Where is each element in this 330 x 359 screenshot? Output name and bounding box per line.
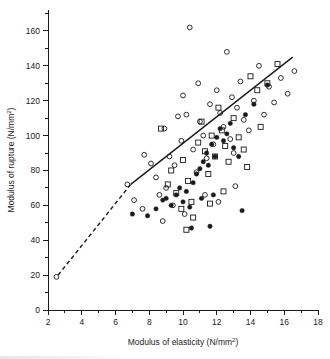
data-point-open-circle [224,49,229,54]
data-point-open-circle [292,69,297,74]
data-point-filled-circle [174,193,178,197]
y-tick-label: 140 [26,61,40,71]
y-tick-label: 160 [26,26,40,36]
data-point-open-square [191,215,196,220]
data-point-open-circle [140,206,145,211]
data-point-open-square [196,140,201,145]
data-point-open-circle [238,79,243,84]
data-point-open-square [245,164,250,169]
data-point-open-square [236,135,241,140]
data-point-filled-circle [265,83,269,87]
data-point-open-square [179,206,184,211]
data-point-open-circle [272,100,277,105]
x-axis-title: Modulus of elasticity (N/mm2) [128,337,239,347]
data-point-filled-circle [188,205,192,209]
data-point-open-circle [162,126,167,131]
y-tick-label: 120 [26,96,40,106]
data-point-open-circle [246,128,251,133]
data-point-open-circle [164,186,169,191]
data-point-filled-circle [194,172,198,176]
data-point-open-circle [184,112,189,117]
y-tick-label: 80 [31,165,41,175]
y-axis-title: Modulus of rupture (N/mm2) [6,107,16,212]
data-point-open-circle [179,138,184,143]
data-point-filled-circle [181,200,185,204]
data-point-open-circle [182,212,187,217]
data-point-filled-circle [211,193,215,197]
data-point-filled-circle [252,102,256,106]
data-point-filled-circle [204,151,208,155]
x-tick-label: 12 [212,317,222,327]
data-point-open-circle [187,25,192,30]
data-point-open-square [216,105,221,110]
data-point-filled-circle [184,189,188,193]
data-point-open-circle [172,163,177,168]
x-tick-label: 8 [147,317,152,327]
data-point-open-square [223,144,228,149]
data-point-open-square [209,133,214,138]
data-point-filled-circle [231,146,235,150]
data-point-filled-circle [199,196,203,200]
data-point-open-circle [231,151,236,156]
data-point-open-circle [132,198,137,203]
data-point-filled-circle [228,121,232,125]
data-point-filled-circle [240,208,244,212]
data-point-filled-circle [206,163,210,167]
data-point-open-square [255,88,260,93]
data-point-filled-circle [215,135,219,139]
x-tick-label: 2 [46,317,51,327]
data-point-open-square [181,158,186,163]
data-point-filled-circle [198,167,202,171]
y-tick-label: 20 [31,270,41,280]
data-point-open-circle [257,63,262,68]
data-point-open-circle [191,147,196,152]
data-point-open-circle [230,95,235,100]
x-tick-label: 10 [178,317,188,327]
data-point-open-square [221,189,226,194]
data-point-open-circle [176,114,181,119]
data-point-open-circle [208,102,213,107]
data-point-filled-circle [213,154,217,158]
data-point-open-square [248,74,253,79]
y-tick-label: 60 [31,200,41,210]
data-point-filled-circle [130,212,134,216]
x-tick-label: 18 [313,317,323,327]
data-point-filled-circle [191,180,195,184]
data-point-open-square [206,171,211,176]
y-tick-label: 40 [31,235,41,245]
data-point-open-square [186,178,191,183]
data-point-open-circle [216,199,221,204]
data-point-open-circle [204,156,209,161]
data-point-open-circle [196,81,201,86]
data-point-filled-circle [243,112,247,116]
data-point-open-circle [54,274,59,279]
data-point-filled-circle [164,196,168,200]
data-point-filled-circle [218,126,222,130]
data-point-filled-circle [169,203,173,207]
data-point-open-circle [203,192,208,197]
data-point-open-circle [181,93,186,98]
data-point-filled-circle [208,224,212,228]
scatter-plot-figure: 02040608010012014016024681012141618Modul… [0,0,330,359]
data-point-open-square [208,201,213,206]
x-tick-label: 4 [79,317,84,327]
data-point-filled-circle [201,160,205,164]
data-point-open-circle [125,182,130,187]
data-point-open-circle [149,161,154,166]
data-point-filled-circle [209,142,213,146]
data-point-filled-circle [189,226,193,230]
data-point-open-square [184,227,189,232]
data-point-open-square [241,147,246,152]
data-point-open-circle [262,112,267,117]
data-point-open-circle [233,184,238,189]
data-point-open-square [169,168,174,173]
data-point-open-square [226,159,231,164]
data-point-open-circle [154,175,159,180]
trendline-dashed-segment [58,184,131,275]
data-point-open-circle [278,76,283,81]
data-point-filled-circle [225,132,229,136]
chart-canvas: 02040608010012014016024681012141618Modul… [0,0,330,359]
data-point-filled-circle [236,154,240,158]
y-tick-label: 100 [26,131,40,141]
data-point-filled-circle [177,186,181,190]
